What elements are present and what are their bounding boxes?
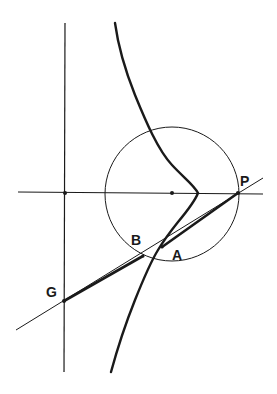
point-center-marker	[170, 191, 174, 195]
segment-gb	[64, 256, 143, 301]
label-b: B	[131, 232, 141, 248]
segment-ap	[162, 193, 238, 247]
label-p: P	[240, 173, 249, 189]
label-a: A	[172, 247, 182, 263]
point-p-marker	[236, 191, 240, 195]
cusp-curve	[111, 23, 198, 372]
point-origin-marker	[63, 191, 67, 195]
vertical-axis-line	[64, 23, 65, 372]
point-g-marker	[62, 299, 66, 303]
geometry-diagram: P A B G	[0, 0, 277, 394]
label-g: G	[46, 284, 57, 300]
horizontal-axis-line	[18, 192, 263, 194]
point-b-marker	[141, 254, 144, 257]
point-a-marker	[160, 245, 163, 248]
